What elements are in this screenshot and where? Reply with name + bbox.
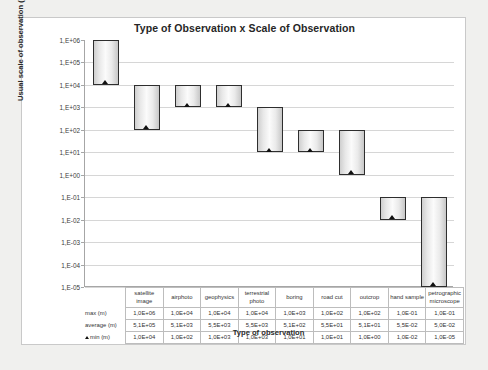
plot-area	[84, 40, 453, 287]
table-header-row: satellite imageairphotogeophysicsterrest…	[84, 288, 463, 308]
y-axis-title: Usual scale of observation (m)	[16, 0, 25, 126]
table-col-header: road cut	[313, 288, 351, 308]
gridline	[85, 242, 454, 243]
gridline	[85, 62, 454, 63]
y-tick-label: 1,E-05	[36, 284, 80, 291]
table-corner-cell	[84, 288, 126, 308]
table-col-header: terrestrial photo	[238, 288, 276, 308]
table-col-header: airphoto	[163, 288, 201, 308]
chart-page: Type of Observation x Scale of Observati…	[0, 0, 488, 370]
y-tick-label: 1,E+01	[36, 149, 80, 156]
table-cell: 1,0E-01	[388, 308, 426, 320]
y-tick-label: 1,E+06	[36, 37, 80, 44]
min-marker-petrographic-microscope	[430, 282, 436, 286]
gridline	[85, 220, 454, 221]
bar-satellite-image	[93, 40, 119, 85]
table-cell: 1,0E-01	[426, 308, 464, 320]
bar-outcrop	[339, 130, 365, 175]
chart-title: Type of Observation x Scale of Observati…	[22, 22, 467, 34]
min-marker-outcrop	[348, 170, 354, 174]
y-tick-label: 1,E-01	[36, 194, 80, 201]
y-tick-label: 1,E-03	[36, 239, 80, 246]
min-marker-geophysics	[184, 103, 190, 107]
table-row: max (m)1,0E+061,0E+041,0E+041,0E+041,0E+…	[84, 308, 463, 320]
table-col-header: outcrop	[351, 288, 389, 308]
y-tick-label: 1,E+02	[36, 126, 80, 133]
y-tick-label: 1,E-02	[36, 216, 80, 223]
gridline	[85, 175, 454, 176]
y-tick-label: 1,E+05	[36, 59, 80, 66]
bar-boring	[257, 107, 283, 152]
table-cell: 1,0E+03	[276, 308, 314, 320]
table-cell: 1,0E+06	[126, 308, 164, 320]
table-cell: 1,0E+04	[163, 308, 201, 320]
table-col-header: hand sample	[388, 288, 426, 308]
y-tick-label: 1,E-04	[36, 261, 80, 268]
min-marker-hand-sample	[389, 215, 395, 219]
y-tick-label: 1,E+04	[36, 81, 80, 88]
gridline	[85, 265, 454, 266]
min-marker-terrestrial-photo	[225, 103, 231, 107]
table-cell: 1,0E+02	[351, 308, 389, 320]
x-axis-title: Type of observation	[84, 328, 453, 337]
chart-card: Type of Observation x Scale of Observati…	[21, 17, 466, 345]
bar-airphoto	[134, 85, 160, 130]
y-tick-label: 1,E+03	[36, 104, 80, 111]
min-marker-satellite-image	[102, 80, 108, 84]
table-col-header: petrographic microscope	[426, 288, 464, 308]
gridline	[85, 152, 454, 153]
table-col-header: geophysics	[201, 288, 239, 308]
table-row-header: max (m)	[84, 308, 126, 320]
min-marker-airphoto	[143, 125, 149, 129]
table-col-header: satellite image	[126, 288, 164, 308]
table-cell: 1,0E+02	[313, 308, 351, 320]
min-marker-road-cut	[307, 148, 313, 152]
y-tick-label: 1,E+00	[36, 171, 80, 178]
table-cell: 1,0E+04	[238, 308, 276, 320]
table-col-header: boring	[276, 288, 314, 308]
bar-petrographic-microscope	[421, 197, 447, 287]
table-cell: 1,0E+04	[201, 308, 239, 320]
min-marker-boring	[266, 148, 272, 152]
